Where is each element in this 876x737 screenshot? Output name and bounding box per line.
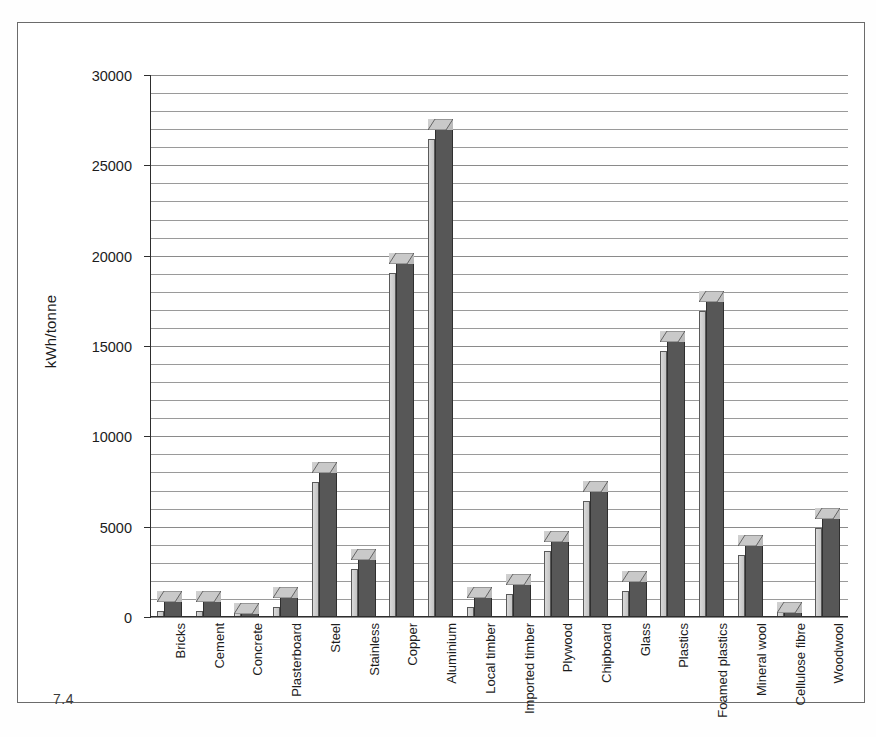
bar-steel (312, 472, 337, 617)
bar-top-face (351, 549, 376, 560)
y-axis-tick: 10000 (144, 436, 151, 437)
bar-side-face (428, 139, 435, 617)
bar-top-face (660, 331, 685, 342)
bar-top-face (428, 119, 453, 130)
bar-plastics (660, 341, 685, 617)
y-axis-tick: 30000 (144, 75, 151, 76)
bar-side-face (699, 311, 706, 617)
y-axis-tick-label: 0 (124, 610, 132, 626)
bar-front-face (745, 545, 763, 617)
bar-front-face (513, 584, 531, 617)
bar-side-face (312, 482, 319, 617)
figure-caption: 7.4 (53, 691, 74, 707)
x-axis-label: Steel (328, 623, 343, 653)
bar-side-face (622, 591, 629, 617)
y-axis-tick: 15000 (144, 346, 151, 347)
x-axis-label: Plasterboard (289, 623, 304, 697)
bar-top-face (544, 531, 569, 542)
bar-top-face (157, 591, 182, 602)
bar-bricks (157, 601, 182, 617)
bar-top-face (273, 587, 298, 598)
bar-aluminium (428, 129, 453, 617)
bar-front-face (435, 129, 453, 617)
x-axis-label: Stainless (367, 623, 382, 676)
bar-mineral-wool (738, 545, 763, 617)
bar-top-face (506, 574, 531, 585)
bar-side-face (351, 569, 358, 617)
x-axis-label: Glass (638, 623, 653, 656)
bar-top-face (389, 253, 414, 264)
bar-top-face (467, 587, 492, 598)
bar-front-face (396, 263, 414, 617)
x-axis-label: Aluminium (444, 623, 459, 684)
figure-frame: kWh/tonne 050001000015000200002500030000… (17, 22, 865, 703)
bar-side-face (389, 273, 396, 617)
bar-plasterboard (273, 597, 298, 617)
y-axis-tick-label: 30000 (92, 68, 132, 84)
bar-side-face (815, 528, 822, 617)
bar-front-face (590, 491, 608, 617)
x-axis-label: Woodwool (831, 623, 846, 683)
bar-plywood (544, 541, 569, 617)
x-axis-label: Cellulose fibre (793, 623, 808, 705)
bar-glass (622, 581, 647, 617)
y-axis-tick: 0 (144, 617, 151, 618)
x-axis-line (150, 616, 848, 617)
x-axis-labels: BricksCementConcretePlasterboardSteelSta… (151, 623, 848, 723)
bar-top-face (622, 571, 647, 582)
gridline (151, 617, 848, 618)
plot-area: 050001000015000200002500030000 (151, 75, 848, 617)
bar-front-face (551, 541, 569, 617)
y-axis-tick: 25000 (144, 165, 151, 166)
x-axis-label: Local timber (483, 623, 498, 694)
x-axis-label: Mineral wool (754, 623, 769, 696)
bar-side-face (544, 551, 551, 617)
bar-side-face (660, 351, 667, 617)
bar-top-face (583, 481, 608, 492)
bar-side-face (738, 555, 745, 617)
y-axis-tick: 20000 (144, 256, 151, 257)
x-axis-label: Copper (405, 623, 420, 666)
bar-front-face (319, 472, 337, 617)
y-axis-tick-label: 15000 (92, 339, 132, 355)
x-axis-label: Plastics (676, 623, 691, 668)
bar-top-face (312, 462, 337, 473)
bar-top-face (777, 602, 802, 613)
x-axis-label: Cement (212, 623, 227, 669)
bar-front-face (164, 601, 182, 617)
x-axis-label: Plywood (560, 623, 575, 672)
bar-stainless (351, 559, 376, 617)
bar-imported-timber (506, 584, 531, 617)
x-axis-label: Foamed plastics (715, 623, 730, 718)
y-axis-tick-label: 5000 (100, 520, 132, 536)
bar-front-face (474, 597, 492, 617)
bar-front-face (706, 301, 724, 617)
bar-foamed-plastics (699, 301, 724, 617)
bar-woodwool (815, 518, 840, 617)
bar-top-face (699, 291, 724, 302)
bar-top-face (234, 603, 259, 614)
y-axis-tick: 5000 (144, 527, 151, 528)
bar-copper (389, 263, 414, 617)
x-axis-label: Chipboard (599, 623, 614, 683)
bar-front-face (203, 601, 221, 617)
bar-local-timber (467, 597, 492, 617)
bar-top-face (196, 591, 221, 602)
bar-side-face (506, 594, 513, 617)
bar-side-face (583, 501, 590, 617)
bar-chipboard (583, 491, 608, 617)
figure-7-4: kWh/tonne 050001000015000200002500030000… (0, 0, 876, 737)
bar-front-face (629, 581, 647, 617)
bar-front-face (358, 559, 376, 617)
x-axis-label: Imported timber (522, 623, 537, 714)
y-axis-tick-label: 20000 (92, 249, 132, 265)
y-axis-tick-label: 10000 (92, 429, 132, 445)
x-axis-label: Bricks (173, 623, 188, 658)
y-axis-title: kWh/tonne (42, 252, 59, 412)
bar-front-face (280, 597, 298, 617)
bar-top-face (738, 535, 763, 546)
bar-cement (196, 601, 221, 617)
bar-front-face (667, 341, 685, 617)
bar-top-face (815, 508, 840, 519)
x-axis-label: Concrete (250, 623, 265, 676)
